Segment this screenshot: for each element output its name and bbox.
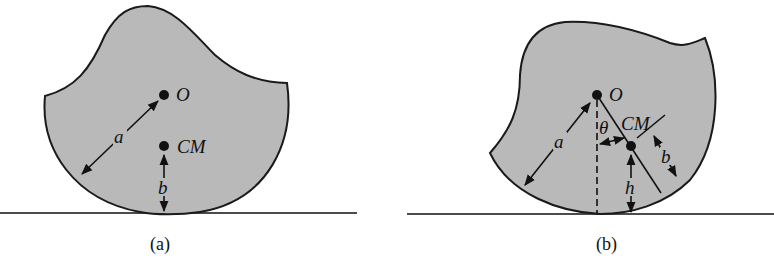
radius-label-a: a (114, 126, 124, 147)
caption-b: (b) (596, 234, 617, 255)
angle-label: θ (599, 117, 608, 138)
cm-offset-label-b: b (661, 146, 671, 167)
radius-label-b: a (554, 131, 564, 152)
pivot-point-a (159, 90, 169, 100)
pivot-label-b: O (609, 84, 623, 105)
cm-point-b (626, 141, 636, 151)
cm-height-label-a: b (158, 177, 168, 198)
cm-point-a (159, 141, 169, 151)
cm-label-a: CM (177, 136, 207, 157)
caption-a: (a) (150, 234, 170, 255)
panel-a: O CM a b (a) (0, 6, 357, 255)
height-label-b: h (625, 177, 635, 198)
panel-b: O CM θ a b h (b) (407, 22, 774, 255)
diagram-canvas: O CM a b (a) O CM θ a b h (b) (0, 0, 774, 263)
pivot-label-a: O (176, 84, 190, 105)
